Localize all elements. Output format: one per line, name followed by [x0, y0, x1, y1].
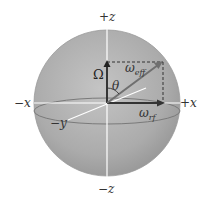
label-theta: θ [112, 79, 120, 93]
label-omega: Ω [93, 67, 104, 82]
bloch-sphere-diagram: +z −z −x +x −y Ω θ ωeff ωrf [0, 0, 203, 198]
label-minus-y: −y [50, 116, 67, 130]
label-plus-z: +z [99, 10, 116, 24]
label-minus-z: −z [98, 182, 115, 196]
label-minus-x: −x [14, 96, 31, 110]
label-plus-x: +x [180, 96, 197, 110]
